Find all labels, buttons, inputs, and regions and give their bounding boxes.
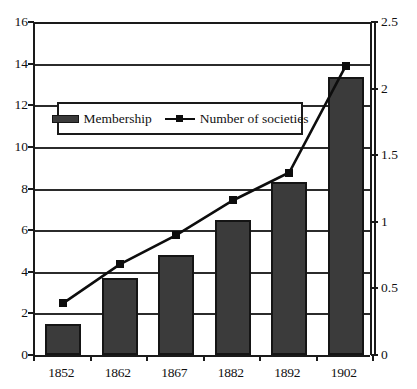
line-marker-1867 [172,231,180,239]
y-left-tick-label: 4 [0,265,28,279]
y-right-tick-label: 1.5 [381,148,415,162]
chart-legend: Membership Number of societies [57,102,303,135]
y-left-tick-label: 0 [0,348,28,362]
line-marker-icon [165,114,195,124]
y-right-tick-label: 2.5 [381,15,415,29]
right-axis-spine [374,22,376,355]
legend-entry-membership: Membership [52,112,152,126]
gridline [35,355,370,357]
line-marker-1852 [59,299,67,307]
y-right-tick-label: 0.5 [381,282,415,296]
x-tick-mark [372,355,374,361]
line-marker-1902 [342,62,350,70]
x-tick-label-1852: 1852 [48,366,74,380]
line-marker-1892 [285,169,293,177]
y-left-tick-label: 12 [0,99,28,113]
x-tick-label-1882: 1882 [218,366,244,380]
chart-container: 0246810121416 00.511.522.5 1852186218671… [0,0,417,389]
y-right-tick-label: 2 [381,82,415,96]
line-marker-1862 [116,260,124,268]
legend-label-societies: Number of societies [200,112,309,126]
bar-swatch-icon [52,115,79,123]
legend-entry-societies: Number of societies [165,112,309,126]
y-left-tick-label: 10 [0,140,28,154]
plot-area [33,22,372,355]
line-markers-layer [35,22,370,355]
legend-label-membership: Membership [84,112,152,126]
line-marker-1882 [229,196,237,204]
y-right-tick-label: 0 [381,348,415,362]
y-left-tick-label: 14 [0,57,28,71]
x-tick-label-1862: 1862 [105,366,131,380]
y-right-tick-label: 1 [381,215,415,229]
y-left-tick-label: 16 [0,15,28,29]
x-tick-label-1902: 1902 [331,366,357,380]
y-left-tick-label: 6 [0,223,28,237]
y-left-tick-label: 2 [0,307,28,321]
x-tick-label-1867: 1867 [161,366,187,380]
x-tick-label-1892: 1892 [274,366,300,380]
y-left-tick-label: 8 [0,182,28,196]
